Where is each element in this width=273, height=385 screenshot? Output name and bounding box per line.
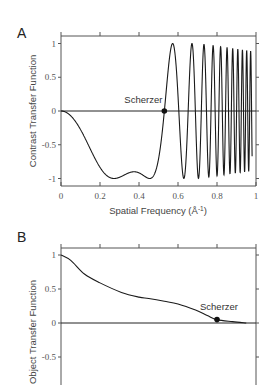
svg-text:0.2: 0.2 (94, 191, 105, 201)
otf-curve (61, 255, 246, 323)
scherzer-label-a: Scherzer (124, 94, 162, 105)
svg-text:0: 0 (59, 191, 64, 201)
scherzer-label-b: Scherzer (200, 301, 238, 312)
panel-a: A 10.50-0.5-1 00.20.40.60.81 Contrast Tr… (17, 25, 259, 216)
svg-text:0.5: 0.5 (45, 72, 57, 82)
panel-b-y-axis-title: Object Transfer Function (27, 280, 38, 384)
svg-text:-0.5: -0.5 (42, 140, 57, 150)
svg-text:0: 0 (52, 106, 57, 116)
figure: A 10.50-0.5-1 00.20.40.60.81 Contrast Tr… (0, 0, 273, 385)
scherzer-marker-b (214, 317, 220, 323)
svg-text:0.4: 0.4 (133, 191, 145, 201)
svg-text:-1: -1 (49, 174, 57, 184)
svg-text:0.5: 0.5 (45, 284, 57, 294)
panel-a-x-tick-labels: 00.20.40.60.81 (59, 191, 259, 201)
panel-a-y-tick-labels: 10.50-0.5-1 (42, 39, 57, 184)
panel-a-x-axis-title: Spatial Frequency (Å-1) (109, 205, 207, 216)
panel-b-y-tick-labels: 10.50-0.5 (42, 250, 57, 362)
panel-b-axes (58, 244, 259, 385)
svg-text:0.6: 0.6 (172, 191, 184, 201)
svg-text:-0.5: -0.5 (42, 352, 57, 362)
svg-text:0.8: 0.8 (211, 191, 223, 201)
svg-text:1: 1 (254, 191, 259, 201)
svg-text:0: 0 (52, 318, 57, 328)
svg-text:1: 1 (52, 39, 57, 49)
scherzer-marker-a (162, 108, 168, 114)
panel-a-y-axis-title: Contrast Transfer Function (27, 55, 38, 167)
panel-label-b: B (17, 229, 26, 245)
panel-b: B 10.50-0.5 Object Transfer Function Sch… (17, 229, 259, 385)
panel-label-a: A (17, 25, 27, 41)
svg-text:1: 1 (52, 250, 57, 260)
